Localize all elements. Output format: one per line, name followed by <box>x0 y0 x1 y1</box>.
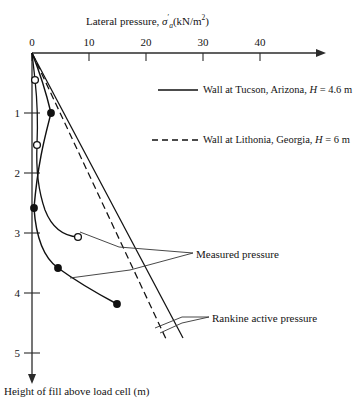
legend-item-tucson-symbol: H <box>309 84 317 95</box>
series-rankine-tucson <box>32 53 183 338</box>
x-tick-label-40: 40 <box>255 36 267 48</box>
y-tick-label-5: 5 <box>15 347 21 359</box>
data-point-filled <box>54 264 62 272</box>
series-measured-lithonia <box>32 53 117 304</box>
leader-lines-rankine <box>155 317 209 333</box>
x-tick-labels: 0 10 20 30 40 <box>29 36 266 48</box>
x-axis-arrow-icon <box>316 49 326 57</box>
x-axis <box>32 49 326 61</box>
y-axis-title: Height of fill above load cell (m) <box>4 386 149 397</box>
x-axis-title: Lateral pressure, σ′a(kN/m2) <box>86 14 209 29</box>
data-point-filled <box>30 204 38 212</box>
legend-item-tucson: Wall at Tucson, Arizona, H = 4.6 m <box>203 85 352 96</box>
y-tick-label-2: 2 <box>15 167 21 179</box>
x-tick-label-10: 10 <box>84 36 96 48</box>
markers-filled-circle <box>30 109 121 308</box>
chart-plot-area: 0 10 20 30 40 1 2 3 4 5 <box>0 0 358 407</box>
x-axis-title-units-close: ) <box>205 15 209 27</box>
x-tick-label-0: 0 <box>29 36 35 48</box>
markers-open-circle <box>32 77 82 241</box>
leader-lines-measured <box>70 232 193 278</box>
annotation-measured-pressure: Measured pressure <box>196 249 279 260</box>
y-axis-arrow-icon <box>28 374 36 384</box>
chart-figure: 0 10 20 30 40 1 2 3 4 5 Lateral pressure… <box>0 0 358 407</box>
legend-item-lithonia-value: = 6 m <box>323 134 350 145</box>
data-point-open <box>75 234 82 241</box>
data-point-filled <box>47 109 55 117</box>
legend-item-tucson-text: Wall at Tucson, Arizona, <box>203 84 309 95</box>
annotation-rankine-active-pressure: Rankine active pressure <box>212 313 317 324</box>
y-tick-label-3: 3 <box>15 227 21 239</box>
x-axis-title-units-open: (kN/m <box>173 15 202 27</box>
x-tick-label-20: 20 <box>141 36 153 48</box>
legend-item-tucson-value: = 4.6 m <box>317 84 352 95</box>
series-rankine-lithonia <box>32 53 167 341</box>
data-point-open <box>34 142 41 149</box>
legend-item-lithonia-text: Wall at Lithonia, Georgia, <box>203 134 315 145</box>
x-axis-title-prefix: Lateral pressure, <box>86 15 162 27</box>
legend-item-lithonia-symbol: H <box>315 134 323 145</box>
legend-item-lithonia: Wall at Lithonia, Georgia, H = 6 m <box>203 135 350 146</box>
y-axis <box>24 53 40 384</box>
y-tick-labels: 1 2 3 4 5 <box>15 107 21 359</box>
y-tick-label-1: 1 <box>15 107 21 119</box>
y-tick-label-4: 4 <box>15 287 21 299</box>
leader-rankine-lower <box>160 317 209 333</box>
x-axis-ticks <box>32 53 260 61</box>
data-point-open <box>32 77 39 84</box>
data-point-filled <box>113 300 121 308</box>
x-tick-label-30: 30 <box>198 36 210 48</box>
